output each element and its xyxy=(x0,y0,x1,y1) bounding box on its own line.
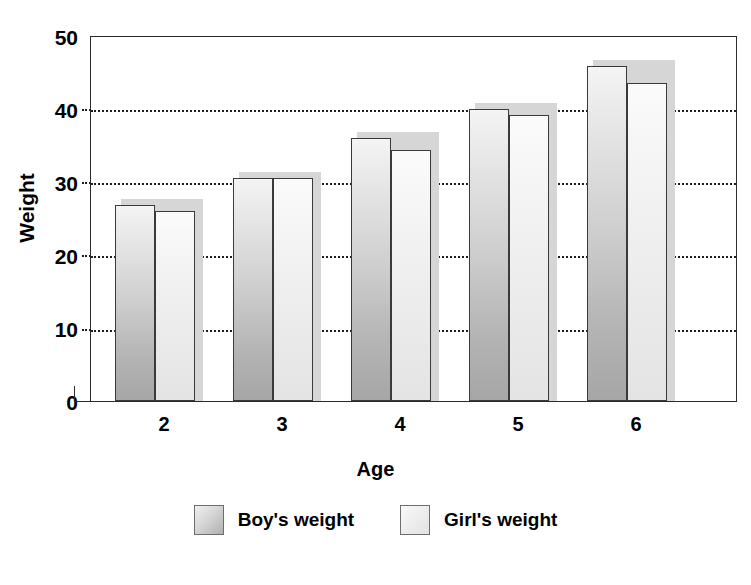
y-tick-label-40: 40 xyxy=(34,100,78,121)
y-tick-label-0: 0 xyxy=(34,392,78,413)
bar-boy-age-5[interactable] xyxy=(469,109,509,401)
grouped-bar-chart: 50 40 30 20 10 0 Weight xyxy=(0,0,751,585)
x-axis-title: Age xyxy=(0,458,751,481)
legend-item-girls-weight[interactable]: Girl's weight xyxy=(400,505,557,535)
bar-boy-age-4[interactable] xyxy=(351,138,391,401)
legend-label-girls-weight: Girl's weight xyxy=(444,509,557,531)
x-tick-label-5: 5 xyxy=(478,414,558,434)
legend-label-boys-weight: Boy's weight xyxy=(238,509,354,531)
boy-swatch-icon xyxy=(194,505,224,535)
bar-boy-age-3[interactable] xyxy=(233,178,273,401)
y-axis-title: Weight xyxy=(15,148,39,268)
plot-area xyxy=(90,36,737,402)
bar-girl-age-5[interactable] xyxy=(509,115,549,401)
y-tick-label-30: 30 xyxy=(34,173,78,194)
bar-girl-age-4[interactable] xyxy=(391,150,431,401)
bar-boy-age-6[interactable] xyxy=(587,66,627,401)
legend-item-boys-weight[interactable]: Boy's weight xyxy=(194,505,354,535)
x-tick-label-2: 2 xyxy=(124,414,204,434)
x-tick-label-6: 6 xyxy=(596,414,676,434)
y-axis: 50 40 30 20 10 0 xyxy=(14,0,78,585)
bar-girl-age-2[interactable] xyxy=(155,211,195,401)
y-tick-label-10: 10 xyxy=(34,319,78,340)
bar-girl-age-3[interactable] xyxy=(273,178,313,401)
x-tick-label-3: 3 xyxy=(242,414,322,434)
bar-boy-age-2[interactable] xyxy=(115,205,155,401)
chart-legend: Boy's weight Girl's weight xyxy=(0,505,751,535)
girl-swatch-icon xyxy=(400,505,430,535)
x-tick-label-4: 4 xyxy=(360,414,440,434)
y-axis-zero-elbow xyxy=(74,386,91,402)
y-tick-label-50: 50 xyxy=(34,27,78,48)
y-tick-label-20: 20 xyxy=(34,246,78,267)
bar-girl-age-6[interactable] xyxy=(627,83,667,401)
